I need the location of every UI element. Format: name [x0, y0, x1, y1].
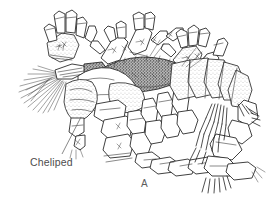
figure-container: Cheliped A — [0, 0, 274, 207]
cheliped — [64, 79, 97, 159]
left-cephalic-appendage — [44, 10, 97, 62]
crustacean-drawing — [0, 0, 274, 207]
